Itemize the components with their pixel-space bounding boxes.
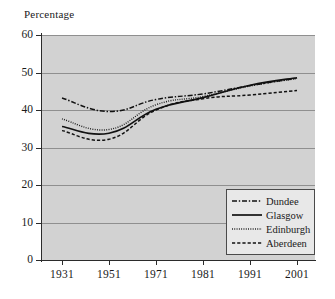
y-axis-tick [36, 73, 42, 74]
legend-item-glasgow[interactable]: Glasgow [232, 208, 309, 222]
y-axis-label: 50 [0, 67, 33, 78]
gridline [42, 148, 315, 149]
line-chart-figure: Percentage 0102030405060 193119511971198… [0, 0, 335, 299]
legend-item-aberdeen[interactable]: Aberdeen [232, 236, 309, 250]
y-axis-tick [36, 35, 42, 36]
y-axis-tick [36, 223, 42, 224]
chart-legend: DundeeGlasgowEdinburghAberdeen [226, 189, 315, 255]
legend-item-edinburgh[interactable]: Edinburgh [232, 222, 309, 236]
legend-swatch-dundee-icon [232, 196, 262, 206]
y-axis-label: 20 [0, 179, 33, 190]
y-axis-label: 40 [0, 104, 33, 115]
gridline [42, 185, 315, 186]
x-axis-tick [203, 260, 204, 265]
legend-label: Dundee [266, 196, 299, 207]
y-axis-tick [36, 110, 42, 111]
chart-axis-title: Percentage [24, 8, 74, 20]
x-axis-label: 2001 [274, 268, 320, 280]
x-axis-tick [297, 260, 298, 265]
y-axis-label: 10 [0, 217, 33, 228]
legend-swatch-edinburgh-icon [232, 224, 262, 234]
y-axis-label: 30 [0, 142, 33, 153]
x-axis-label: 1971 [133, 268, 179, 280]
y-axis-tick [36, 148, 42, 149]
legend-label: Aberdeen [266, 238, 307, 249]
y-axis-label: 60 [0, 29, 33, 40]
x-axis-label: 1981 [180, 268, 226, 280]
x-axis-tick [62, 260, 63, 265]
gridline [42, 73, 315, 74]
x-axis-tick [109, 260, 110, 265]
legend-swatch-aberdeen-icon [232, 238, 262, 248]
y-axis-label: 0 [0, 254, 33, 265]
gridline [42, 35, 315, 36]
x-axis-tick [156, 260, 157, 265]
legend-swatch-glasgow-icon [232, 210, 262, 220]
x-axis-label: 1951 [86, 268, 132, 280]
legend-label: Glasgow [266, 210, 303, 221]
y-axis-tick [36, 185, 42, 186]
x-axis-line [41, 260, 316, 261]
x-axis-tick [250, 260, 251, 265]
legend-label: Edinburgh [266, 224, 310, 235]
gridline [42, 110, 315, 111]
x-axis-label: 1931 [39, 268, 85, 280]
y-axis-tick [36, 260, 42, 261]
x-axis-label: 1991 [227, 268, 273, 280]
legend-item-dundee[interactable]: Dundee [232, 194, 309, 208]
